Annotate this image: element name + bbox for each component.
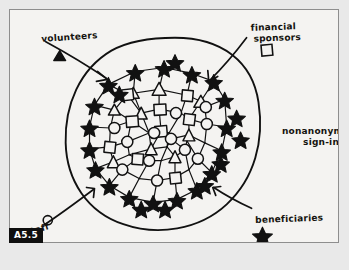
figure-tag: A5.5 [9, 228, 43, 243]
label-nonanonymous-signins: nonanonymous sign-ins [282, 126, 339, 148]
figure-root: volunteers financial sponsors nonanonymo… [0, 0, 349, 270]
arrow-beneficiaries [213, 186, 252, 208]
label-financial-sponsors-line1: financial [251, 21, 297, 33]
label-financial-sponsors: financial sponsors [246, 21, 301, 45]
label-financial-sponsors-line2: sponsors [253, 32, 301, 45]
label-nonanonymous-line1: nonanonymous [282, 126, 339, 136]
label-beneficiaries-text: beneficiaries [255, 213, 323, 225]
arrow-volunteers [46, 42, 108, 82]
figure-panel: volunteers financial sponsors nonanonymo… [9, 9, 339, 243]
square-glyph [261, 44, 273, 56]
label-nonanonymous-line2: sign-ins [286, 137, 339, 148]
arrow-staff [44, 187, 95, 225]
star-glyph [253, 227, 273, 242]
